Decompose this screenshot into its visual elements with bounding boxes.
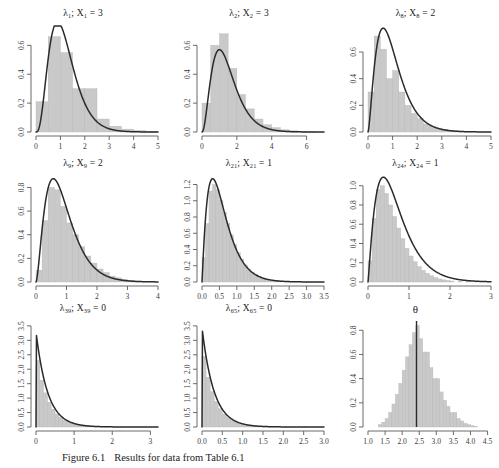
svg-text:0.4: 0.4 (349, 74, 358, 84)
svg-text:2: 2 (415, 142, 419, 151)
svg-text:5: 5 (156, 142, 160, 151)
svg-text:0.4: 0.4 (183, 69, 192, 79)
svg-text:0.8: 0.8 (183, 212, 192, 222)
svg-text:0.0: 0.0 (17, 277, 26, 287)
plot-svg-6: 01230.00.51.01.52.02.53.03.5 (0, 317, 166, 453)
svg-text:4: 4 (132, 142, 136, 151)
svg-text:3.0: 3.0 (319, 437, 329, 446)
panel-title: λ39; X39 = 0 (0, 303, 166, 313)
svg-text:2.5: 2.5 (284, 292, 294, 301)
svg-text:2.5: 2.5 (415, 437, 425, 446)
svg-text:1.5: 1.5 (250, 292, 260, 301)
svg-text:1.5: 1.5 (183, 379, 192, 389)
svg-text:2: 2 (235, 142, 239, 151)
svg-text:4: 4 (465, 142, 469, 151)
svg-text:5: 5 (489, 142, 493, 151)
svg-text:0.8: 0.8 (349, 200, 358, 210)
svg-text:0.5: 0.5 (17, 408, 26, 418)
svg-text:0.5: 0.5 (215, 292, 225, 301)
svg-text:0.0: 0.0 (183, 127, 192, 137)
svg-text:3: 3 (107, 142, 111, 151)
svg-text:4.5: 4.5 (483, 437, 493, 446)
svg-text:3: 3 (489, 292, 493, 301)
svg-text:3.5: 3.5 (17, 321, 26, 331)
panel-lambda-65: λ65; X65 = 0 0.00.51.01.52.02.53.00.00.5… (166, 303, 332, 453)
svg-text:0.2: 0.2 (349, 258, 358, 268)
figure-caption: Figure 6.1Results for data from Table 6.… (62, 452, 442, 463)
svg-text:1.5: 1.5 (380, 437, 390, 446)
svg-text:6: 6 (305, 142, 309, 151)
svg-text:3.5: 3.5 (449, 437, 459, 446)
svg-text:2.0: 2.0 (279, 437, 289, 446)
svg-text:2.0: 2.0 (17, 364, 26, 374)
svg-text:0.6: 0.6 (349, 47, 358, 57)
svg-text:0.4: 0.4 (349, 374, 358, 384)
panel-title-theta: θ (332, 303, 499, 315)
svg-text:0.4: 0.4 (183, 245, 192, 255)
svg-text:0.0: 0.0 (17, 127, 26, 137)
svg-text:1.0: 1.0 (183, 196, 192, 206)
svg-text:0.4: 0.4 (349, 239, 358, 249)
svg-text:0.2: 0.2 (183, 261, 192, 271)
svg-text:0.5: 0.5 (218, 437, 228, 446)
svg-text:0.0: 0.0 (197, 292, 207, 301)
svg-text:3: 3 (126, 292, 130, 301)
svg-text:4.0: 4.0 (466, 437, 476, 446)
figure-caption-text: Results for data from Table 6.1 (114, 452, 244, 463)
svg-text:1.0: 1.0 (363, 437, 373, 446)
plot-svg-0: 0123450.00.20.40.6 (0, 22, 166, 158)
panel-title: λ2; X2 = 3 (166, 8, 332, 18)
plot-area: 01230.00.51.01.52.02.53.03.5 (0, 317, 166, 453)
svg-text:2: 2 (110, 437, 114, 446)
svg-text:0: 0 (366, 292, 370, 301)
svg-text:2.5: 2.5 (17, 350, 26, 360)
panel-title: λ8; X8 = 2 (332, 8, 499, 18)
plot-svg-5: 01230.00.20.40.60.81.0 (332, 172, 499, 308)
svg-text:0.5: 0.5 (183, 408, 192, 418)
panel-lambda-9: λ9; X9 = 2 012340.00.20.40.60.8 (0, 158, 166, 308)
svg-text:0: 0 (34, 437, 38, 446)
panel-title: λ1; X1 = 3 (0, 8, 166, 18)
svg-text:0.0: 0.0 (17, 422, 26, 432)
svg-text:1.5: 1.5 (258, 437, 268, 446)
svg-text:3.0: 3.0 (432, 437, 442, 446)
svg-text:0.0: 0.0 (349, 127, 358, 137)
svg-text:1: 1 (65, 292, 69, 301)
svg-text:3: 3 (440, 142, 444, 151)
plot-svg-1: 02460.00.20.40.6 (166, 22, 332, 158)
svg-text:1: 1 (59, 142, 63, 151)
svg-text:1.0: 1.0 (349, 181, 358, 191)
svg-text:3.0: 3.0 (302, 292, 312, 301)
figure-caption-label: Figure 6.1 (62, 452, 105, 463)
plot-svg-8: 1.01.52.02.53.03.54.04.50.00.20.40.60.8 (332, 317, 499, 453)
plot-area: 0.00.51.01.52.02.53.00.00.51.01.52.02.53… (166, 317, 332, 453)
svg-text:0.2: 0.2 (349, 100, 358, 110)
svg-text:0.0: 0.0 (349, 277, 358, 287)
svg-text:2.0: 2.0 (183, 364, 192, 374)
panel-lambda-24: λ24; X24 = 1 01230.00.20.40.60.81.0 (332, 158, 499, 308)
svg-text:0.2: 0.2 (349, 398, 358, 408)
svg-text:0.4: 0.4 (17, 69, 26, 79)
svg-text:1.2: 1.2 (183, 180, 192, 190)
figure-results-table-6-1: λ1; X1 = 3 0123450.00.20.40.6 λ2; X2 = 3… (0, 0, 499, 468)
svg-text:0.8: 0.8 (17, 183, 26, 193)
svg-text:2: 2 (95, 292, 99, 301)
svg-text:1.0: 1.0 (232, 292, 242, 301)
plot-svg-2: 0123450.00.20.40.6 (332, 22, 499, 158)
svg-text:0: 0 (34, 292, 38, 301)
svg-text:4: 4 (270, 142, 274, 151)
svg-text:2.5: 2.5 (299, 437, 309, 446)
svg-text:2: 2 (448, 292, 452, 301)
panel-theta: θ 1.01.52.02.53.03.54.04.50.00.20.40.60.… (332, 303, 499, 453)
plot-svg-3: 012340.00.20.40.60.8 (0, 172, 166, 308)
svg-text:3: 3 (148, 437, 152, 446)
svg-text:2.0: 2.0 (267, 292, 277, 301)
svg-text:0.2: 0.2 (17, 98, 26, 108)
svg-text:0.0: 0.0 (197, 437, 207, 446)
svg-text:0.4: 0.4 (17, 230, 26, 240)
plot-area: 0123450.00.20.40.6 (0, 22, 166, 158)
svg-text:2.0: 2.0 (397, 437, 407, 446)
svg-text:0.0: 0.0 (183, 277, 192, 287)
plot-svg-4: 0.00.51.01.52.02.53.03.50.00.20.40.60.81… (166, 172, 332, 308)
svg-text:1: 1 (391, 142, 395, 151)
